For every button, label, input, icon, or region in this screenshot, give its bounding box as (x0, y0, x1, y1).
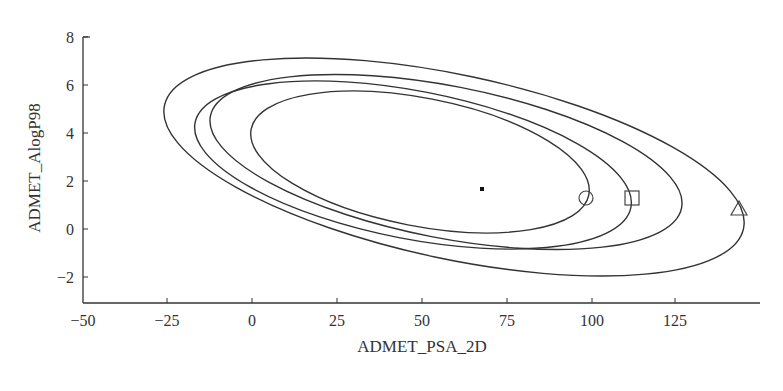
x-tick-label: −25 (154, 312, 179, 329)
x-tick-label: 125 (663, 312, 687, 329)
y-tick-label: 0 (66, 221, 74, 238)
y-tick-label: 6 (66, 77, 74, 94)
confidence-ellipses (145, 15, 762, 318)
y-tick-labels: 8 6 4 2 0 −2 (57, 29, 74, 286)
y-tick-label: 8 (66, 29, 74, 46)
x-ticks (167, 298, 675, 303)
y-tick-label: −2 (57, 269, 74, 286)
ellipse-triangle (145, 15, 762, 318)
y-tick-label: 2 (66, 173, 74, 190)
center-dot-marker (480, 187, 484, 191)
y-ticks (83, 37, 88, 277)
y-axis-title: ADMET_AlogP98 (25, 103, 44, 232)
x-tick-label: 25 (329, 312, 345, 329)
x-tick-label: 100 (580, 312, 604, 329)
x-tick-label: −50 (70, 312, 95, 329)
x-tick-label: 0 (248, 312, 256, 329)
x-axis-title: ADMET_PSA_2D (357, 337, 486, 356)
x-tick-label: 75 (499, 312, 515, 329)
x-tick-label: 50 (414, 312, 430, 329)
chart-canvas: 8 6 4 2 0 −2 −50 −25 0 25 50 75 100 125 … (0, 0, 783, 391)
x-tick-labels: −50 −25 0 25 50 75 100 125 (70, 312, 687, 329)
ellipse-third (196, 42, 696, 283)
y-tick-label: 4 (66, 125, 74, 142)
ellipse-circle (239, 66, 601, 257)
